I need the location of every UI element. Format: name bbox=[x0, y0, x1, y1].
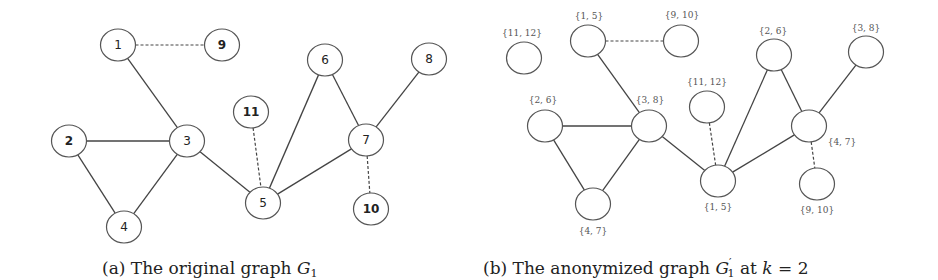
b-node: {3, 8} bbox=[632, 95, 667, 142]
b-node: {9, 10} bbox=[664, 10, 700, 57]
caption-b-at: at bbox=[735, 258, 763, 278]
caption-b-subscript: 1 bbox=[728, 267, 735, 280]
a-edge-solid bbox=[278, 149, 352, 194]
figure-canvas: 1923411567810 (a) The original graph G1 … bbox=[0, 0, 938, 280]
node-circle bbox=[701, 165, 736, 197]
caption-b-k: k bbox=[762, 258, 772, 278]
node-label: {11, 12} bbox=[687, 77, 727, 87]
a-edge-solid bbox=[376, 72, 419, 127]
b-node: {9, 10} bbox=[800, 168, 835, 215]
a-edge-solid bbox=[78, 155, 115, 213]
a-node: 3 bbox=[170, 125, 205, 157]
node-label: 9 bbox=[218, 38, 226, 52]
node-label: {11, 12} bbox=[502, 28, 542, 38]
b-edge-solid bbox=[781, 70, 802, 112]
node-label: {4, 7} bbox=[579, 226, 608, 236]
node-circle bbox=[571, 25, 606, 57]
a-edge-solid bbox=[134, 154, 178, 213]
node-circle bbox=[757, 39, 792, 71]
a-edge-dashed bbox=[367, 156, 370, 193]
node-label: 1 bbox=[114, 38, 122, 52]
caption-b-text: (b) The anonymized graph bbox=[483, 258, 715, 278]
b-node: {11, 12} bbox=[502, 28, 542, 74]
a-node: 2 bbox=[52, 125, 87, 157]
caption-a-text: (a) The original graph bbox=[102, 258, 297, 278]
panel-b-anonymized-graph: {11, 12}{1, 5}{9, 10}{2, 6}{3, 8}{4, 7}{… bbox=[483, 10, 884, 280]
node-circle bbox=[849, 36, 884, 68]
a-node: 5 bbox=[246, 187, 281, 219]
b-edge-solid bbox=[733, 135, 795, 172]
node-label: 8 bbox=[425, 52, 433, 66]
b-node: {1, 5} bbox=[701, 165, 736, 212]
node-label: {2, 6} bbox=[529, 95, 558, 105]
node-label: 4 bbox=[120, 220, 128, 234]
panel-b-caption: (b) The anonymized graph G′1 at k = 2 bbox=[483, 256, 808, 280]
b-edge-solid bbox=[554, 140, 585, 190]
caption-b-equals: = 2 bbox=[773, 258, 809, 278]
caption-a-symbol: G bbox=[297, 258, 311, 278]
a-edge-solid bbox=[200, 152, 250, 193]
node-label: 7 bbox=[362, 133, 370, 147]
node-label: {3, 8} bbox=[636, 95, 665, 105]
caption-a-subscript: 1 bbox=[311, 267, 318, 280]
node-circle bbox=[690, 91, 725, 123]
node-circle bbox=[792, 110, 827, 142]
node-label: {1, 5} bbox=[575, 11, 604, 21]
panel-a-nodes: 1923411567810 bbox=[52, 29, 447, 243]
b-edge-dashed bbox=[811, 142, 815, 168]
panel-a-original-graph: 1923411567810 (a) The original graph G1 bbox=[52, 29, 447, 280]
node-label: 6 bbox=[321, 53, 329, 67]
b-edge-solid bbox=[725, 70, 768, 166]
node-label: 5 bbox=[259, 196, 267, 210]
node-label: {2, 6} bbox=[759, 26, 788, 36]
panel-a-caption: (a) The original graph G1 bbox=[102, 258, 318, 280]
a-edge-solid bbox=[128, 58, 178, 127]
node-circle bbox=[664, 25, 699, 57]
b-node: {1, 5} bbox=[571, 11, 606, 57]
b-edge-solid bbox=[603, 139, 640, 190]
b-node: {4, 7} bbox=[792, 110, 857, 147]
a-node: 7 bbox=[349, 124, 384, 156]
b-node: {3, 8} bbox=[849, 23, 884, 68]
a-edge-solid bbox=[269, 75, 318, 188]
node-label: {4, 7} bbox=[828, 137, 857, 147]
a-node: 6 bbox=[308, 44, 343, 76]
node-label: {3, 8} bbox=[852, 23, 881, 33]
node-label: {9, 10} bbox=[665, 10, 699, 20]
node-circle bbox=[507, 42, 542, 74]
a-edge-dashed bbox=[253, 128, 261, 187]
b-node: {2, 6} bbox=[528, 95, 563, 142]
b-node: {2, 6} bbox=[757, 26, 792, 71]
b-edge-dashed bbox=[709, 123, 715, 165]
node-label: {1, 5} bbox=[704, 202, 733, 212]
panel-b-nodes: {11, 12}{1, 5}{9, 10}{2, 6}{3, 8}{4, 7}{… bbox=[502, 10, 884, 236]
node-label: 3 bbox=[183, 134, 191, 148]
a-node: 10 bbox=[354, 193, 389, 225]
a-node: 9 bbox=[205, 29, 240, 61]
node-label: 11 bbox=[243, 105, 260, 119]
node-circle bbox=[800, 168, 835, 200]
b-node: {4, 7} bbox=[576, 188, 611, 236]
b-node: {11, 12} bbox=[687, 77, 727, 123]
a-node: 1 bbox=[101, 29, 136, 61]
node-label: {9, 10} bbox=[800, 205, 834, 215]
b-edge-solid bbox=[662, 137, 705, 171]
b-edge-solid bbox=[819, 65, 856, 113]
a-node: 11 bbox=[234, 96, 269, 128]
node-circle bbox=[576, 188, 611, 220]
node-label: 2 bbox=[65, 134, 73, 148]
node-circle bbox=[632, 110, 667, 142]
a-edge-solid bbox=[332, 74, 358, 125]
node-circle bbox=[528, 110, 563, 142]
a-node: 4 bbox=[107, 211, 142, 243]
b-edge-solid bbox=[598, 54, 640, 112]
node-label: 10 bbox=[363, 202, 380, 216]
a-node: 8 bbox=[412, 43, 447, 75]
